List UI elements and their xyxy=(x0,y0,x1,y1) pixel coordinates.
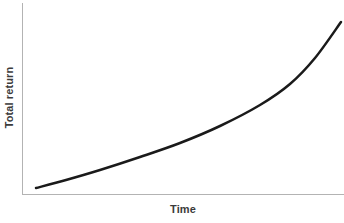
x-axis-label-text: Time xyxy=(170,203,196,215)
total-return-curve xyxy=(36,22,341,188)
y-axis-label-text: Total return xyxy=(5,66,16,128)
x-axis-label: Time xyxy=(22,204,344,215)
y-axis-label: Total return xyxy=(0,0,20,194)
chart-plot-area xyxy=(0,0,344,223)
chart-figure: Total return Time xyxy=(0,0,344,223)
